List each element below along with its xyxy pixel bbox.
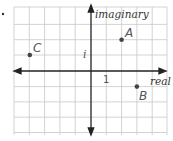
point-c <box>28 53 33 58</box>
real-axis-label: real <box>150 76 171 87</box>
complex-plane-diagram <box>0 0 173 141</box>
point-b-label: B <box>139 90 147 102</box>
real-axis <box>14 68 166 73</box>
point-a-label: A <box>125 27 133 39</box>
imaginary-axis-label: imaginary <box>95 9 149 20</box>
problem-marker <box>2 13 4 15</box>
point-a <box>119 37 124 42</box>
real-unit-label: 1 <box>103 75 109 85</box>
imaginary-unit-label: i <box>83 49 87 60</box>
point-c-label: C <box>33 42 41 54</box>
